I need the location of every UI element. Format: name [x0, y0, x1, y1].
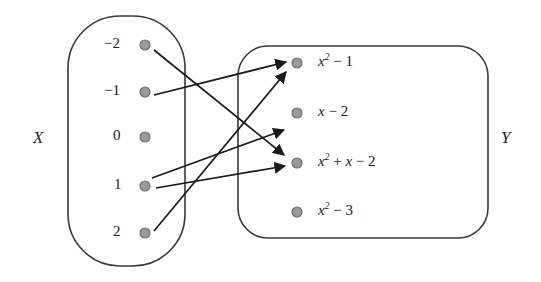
variable-x: x — [318, 53, 325, 69]
node-y-xsq-x-2 — [292, 158, 302, 168]
set-x-label: X — [33, 128, 43, 148]
set-y-outline — [238, 46, 488, 238]
node-x-one — [140, 181, 150, 191]
mapping-diagram: X Y −2 −1 0 1 2 x2 − 1 x − 2 x2 + x − 2 … — [0, 0, 541, 282]
node-y-xsq-1 — [292, 58, 302, 68]
variable-x: x — [318, 103, 325, 119]
set-y-label: Y — [501, 128, 510, 148]
set-y-nodes — [292, 58, 302, 217]
node-y-x-2 — [292, 108, 302, 118]
node-x-neg1 — [140, 87, 150, 97]
node-y-xsq-3 — [292, 207, 302, 217]
arrow-neg2-to-xsq-x-2 — [154, 50, 284, 155]
node-x-two — [140, 228, 150, 238]
arrow-two-to-xsq-1 — [154, 72, 286, 231]
expression-tail: − 2 — [325, 103, 348, 119]
variable-x: x — [318, 202, 325, 218]
element-label-y-xsq-3: x2 − 3 — [318, 202, 353, 219]
diagram-canvas — [0, 0, 541, 282]
element-label-x-one: 1 — [114, 176, 122, 193]
element-label-x-neg2: −2 — [104, 35, 120, 52]
arrow-group — [152, 50, 286, 231]
expression-tail: − 3 — [329, 202, 352, 218]
element-label-y-xsq-1: x2 − 1 — [318, 53, 353, 70]
node-x-zero — [140, 132, 150, 142]
variable-x: x — [318, 153, 325, 169]
expression-tail: + x − 2 — [329, 153, 375, 169]
set-x-nodes — [140, 40, 150, 238]
set-x-outline — [68, 16, 185, 266]
element-label-x-zero: 0 — [113, 127, 121, 144]
element-label-y-xsq-x-2: x2 + x − 2 — [318, 153, 376, 170]
element-label-y-x-2: x − 2 — [318, 103, 348, 120]
element-label-x-neg1: −1 — [104, 82, 120, 99]
node-x-neg2 — [140, 40, 150, 50]
expression-tail: − 1 — [329, 53, 352, 69]
element-label-x-two: 2 — [113, 223, 121, 240]
